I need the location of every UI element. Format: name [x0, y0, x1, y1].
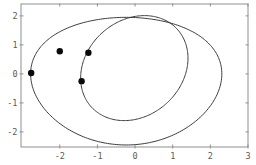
outer-orbit-curve: [31, 17, 222, 145]
y-tick-label: 1: [12, 40, 17, 50]
y-tick-label: -1: [7, 98, 17, 108]
data-point: [28, 70, 34, 76]
x-tick-label: 3: [245, 151, 250, 161]
data-point: [85, 50, 91, 56]
data-point: [57, 48, 63, 54]
x-tick-label: -1: [92, 151, 102, 161]
plot-frame: [21, 4, 248, 147]
inner-orbit-curve: [81, 16, 188, 121]
y-tick-label: 2: [12, 11, 17, 21]
data-point: [78, 78, 84, 84]
x-tick-label: 2: [208, 151, 213, 161]
y-tick-label: 0: [12, 69, 17, 79]
x-tick-label: 1: [170, 151, 175, 161]
y-tick-label: -2: [7, 127, 17, 137]
x-tick-label: -2: [55, 151, 65, 161]
x-tick-label: 0: [133, 151, 138, 161]
figure-canvas: -2-10123-2-1012: [0, 0, 256, 165]
phase-portrait-plot: -2-10123-2-1012: [0, 0, 256, 165]
